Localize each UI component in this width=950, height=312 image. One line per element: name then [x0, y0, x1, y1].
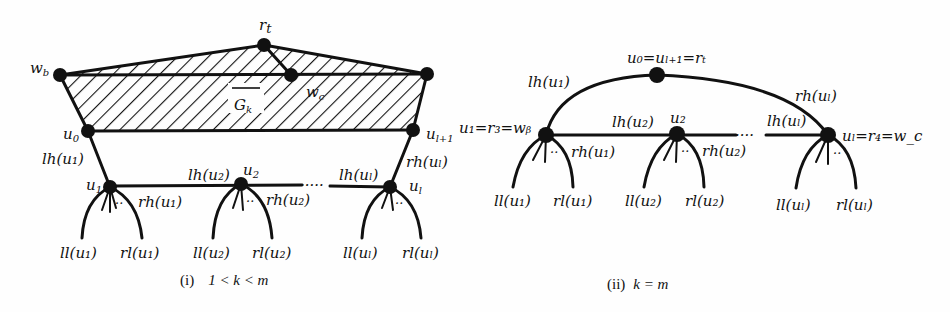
fan-u1 [82, 187, 142, 238]
fan-ii-dots-ul: ·· [833, 146, 841, 161]
node-ul1 [406, 123, 420, 137]
figure-svg: rt wb wc u0 ul+1 u1 u2 ul Gk lh(u₁) rh(u… [0, 0, 950, 312]
label-ii-top: u₀=uₗ₊₁=rₜ [627, 49, 706, 67]
edge-label-rh-ul: rh(uₗ) [406, 153, 448, 171]
node-wc [284, 68, 298, 82]
edge-chain-ul [330, 186, 390, 187]
node-ii-u2 [669, 126, 685, 142]
node-ul [383, 180, 397, 194]
node-u0 [81, 124, 95, 138]
node-ii-left [538, 127, 554, 143]
leaf-ii-ll-u1: ll(u₁) [494, 192, 531, 210]
panel-ii: u₀=uₗ₊₁=rₜ u₁=r₃=wᵦ u₂ uₗ=r₄=w_c lh(u₁) … [459, 49, 923, 293]
edge-label-lh-ul: lh(uₗ) [339, 166, 379, 184]
leaf-ii-rl-u2: rl(u₂) [685, 192, 724, 210]
chain-ellipsis: ····· [300, 176, 324, 194]
fan-u2 [213, 184, 272, 238]
edge-u1-u2-chain [110, 185, 302, 186]
edge-label-ii-lh-ul: lh(uₗ) [767, 112, 807, 130]
label-ii-right: uₗ=r₄=w_c [842, 127, 923, 145]
edge-label-lh-u1: lh(u₁) [42, 150, 84, 168]
label-wb: wb [30, 59, 49, 78]
leaf-ii-ll-u2: ll(u₂) [625, 192, 662, 210]
label-ul: ul [409, 177, 422, 196]
leaf-ii-rl-ul: rl(uₗ) [836, 196, 873, 214]
node-right-top [420, 67, 434, 81]
fan-dots-u2: ·· [246, 194, 254, 209]
leaf-ii-ll-ul: ll(uₗ) [776, 196, 811, 214]
leaf-ii-rl-u1: rl(u₁) [553, 192, 592, 210]
node-u1 [103, 180, 117, 194]
label-u0: u0 [63, 125, 80, 144]
label-rt: rt [259, 16, 272, 36]
fan-ii-dots-u2: ·· [681, 144, 689, 159]
leaf-rl-ul: rl(uₗ) [402, 244, 439, 262]
chain-ii-ellipsis: ···· [735, 126, 754, 144]
figure-canvas: rt wb wc u0 ul+1 u1 u2 ul Gk lh(u₁) rh(u… [0, 0, 950, 312]
edge-label-ii-rh-u2: rh(u₂) [702, 142, 746, 160]
fan-ii-u1 [513, 135, 573, 187]
edge-wb-right [60, 74, 427, 75]
panel-i: rt wb wc u0 ul+1 u1 u2 ul Gk lh(u₁) rh(u… [30, 16, 454, 289]
label-u2: u2 [243, 161, 259, 180]
node-ii-right [820, 127, 836, 143]
edge-label-ii-rh-u1: rh(u₁) [571, 143, 615, 161]
fan-dots-ul: ·· [395, 196, 403, 211]
caption-i: (i)1 < k < m [180, 272, 269, 289]
caption-ii: (ii)k = m [607, 276, 669, 293]
label-ii-left: u₁=r₃=wᵦ [459, 119, 532, 137]
edge-label-ii-lh-u1: lh(u₁) [528, 73, 570, 91]
leaf-ll-u2: ll(u₂) [193, 244, 230, 262]
fan-dots-u1: ·· [115, 196, 123, 211]
edge-label-rh-u1: rh(u₁) [138, 193, 182, 211]
label-ul1: ul+1 [426, 125, 454, 144]
edge-label-ii-lh-u2: lh(u₂) [612, 113, 654, 131]
node-u2 [234, 177, 248, 191]
node-ii-top [649, 67, 665, 83]
fan-ii-dots-u1: ·· [550, 145, 558, 160]
label-u1: u1 [86, 176, 102, 195]
leaf-ll-u1: ll(u₁) [60, 244, 97, 262]
node-wb [53, 68, 67, 82]
edge-label-ii-rh-ul: rh(uₗ) [795, 87, 837, 105]
edge-label-lh-u2: lh(u₂) [188, 166, 230, 184]
node-rt [257, 38, 271, 52]
leaf-ll-ul: ll(uₗ) [343, 244, 378, 262]
label-ii-u2: u₂ [670, 109, 686, 127]
leaf-rl-u2: rl(u₂) [252, 244, 291, 262]
edge-u0-ul1 [88, 130, 413, 131]
fan-ii-u2 [644, 134, 704, 187]
leaf-rl-u1: rl(u₁) [120, 244, 159, 262]
